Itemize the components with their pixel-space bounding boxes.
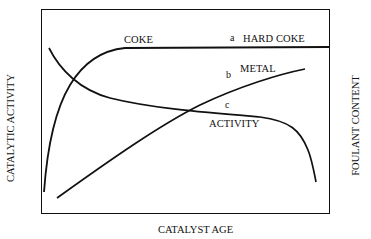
y-axis-right-label: FOULANT CONTENT	[350, 75, 361, 175]
coke-curve	[44, 47, 329, 192]
y-axis-left-label: CATALYTIC ACTIVITY	[5, 74, 16, 182]
series-a-tag: a	[230, 32, 235, 43]
plot-curves	[0, 0, 371, 239]
x-axis-label: CATALYST AGE	[10, 224, 371, 235]
coke-label: COKE	[124, 34, 153, 45]
activity-label: ACTIVITY	[209, 118, 259, 129]
series-b-tag: b	[226, 69, 231, 80]
metal-curve	[57, 69, 305, 198]
metal-label: METAL	[240, 63, 276, 74]
hard-coke-label: HARD COKE	[243, 33, 305, 44]
series-c-tag: c	[225, 99, 230, 110]
